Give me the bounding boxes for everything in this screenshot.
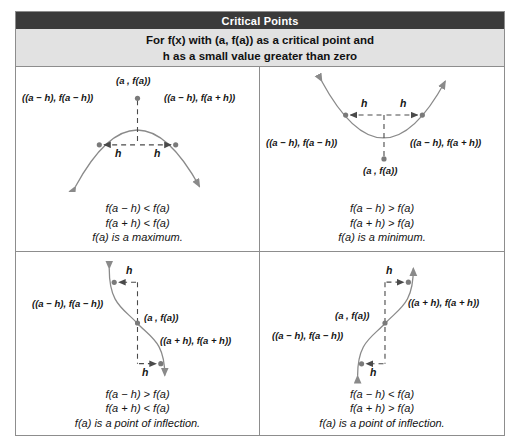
label-left-point: ((a − h), f(a − h)) [32,298,103,309]
caption-maximum: f(a − h) < f(a) f(a + h) < f(a) f(a) is … [16,201,259,245]
label-h-top: h [386,264,392,276]
panel-inflection-increasing: h ((a + h), f(a + h)) (a , f(a)) ((a − h… [260,252,504,437]
caption-line-2: f(a + h) < f(a) [16,401,259,416]
left-point-dot [343,112,348,117]
label-right-point: ((a + h), f(a + h)) [408,297,479,308]
subtitle-line-1: For f(x) with (a, f(a)) as a critical po… [146,32,374,48]
table-subtitle: For f(x) with (a, f(a)) as a critical po… [16,29,504,67]
panel-maximum: (a , f(a)) ((a − h), f(a − h)) ((a − h),… [16,67,260,252]
panel-minimum: h h ((a − h), f(a − h)) ((a − h), f(a + … [260,67,504,252]
caption-line-1: f(a − h) > f(a) [260,201,504,216]
vertex-dot [381,156,386,161]
label-vertex: (a , f(a)) [335,310,369,321]
left-point-dot [97,142,102,147]
caption-inflection-increasing: f(a − h) < f(a) f(a + h) > f(a) f(a) is … [260,387,504,431]
subtitle-line-2: h as a small value greater than zero [163,48,357,64]
critical-points-table: Critical Points For f(x) with (a, f(a)) … [15,11,505,436]
right-point-dot [173,142,178,147]
label-h-bottom: h [142,366,148,378]
right-point-dot [158,361,163,366]
figure-inflection-decreasing [16,252,259,390]
caption-line-3: f(a) is a minimum. [260,230,504,245]
label-vertex: (a , f(a)) [363,165,397,176]
label-h-right: h [400,97,406,109]
caption-line-2: f(a + h) > f(a) [260,216,504,231]
label-right-point: ((a − h), f(a + h)) [164,92,235,103]
caption-line-2: f(a + h) < f(a) [16,216,259,231]
caption-line-2: f(a + h) > f(a) [260,401,504,416]
label-h-top: h [126,264,132,276]
table-title: Critical Points [16,12,504,29]
curve-path [322,81,445,138]
panels-grid: (a , f(a)) ((a − h), f(a − h)) ((a − h),… [16,67,504,436]
left-point-dot [359,361,364,366]
label-vertex: (a , f(a)) [144,312,178,323]
label-left-point: ((a − h), f(a − h)) [266,137,337,148]
label-vertex: (a , f(a)) [116,75,150,86]
vertex-dot [135,96,140,101]
label-h-right: h [154,147,160,159]
figure-inflection-increasing [260,252,504,390]
vertex-dot [382,320,387,325]
caption-line-3: f(a) is a maximum. [16,230,259,245]
label-left-point: ((a − h), f(a − h)) [272,330,343,341]
label-right-point: ((a + h), f(a + h)) [160,335,231,346]
caption-line-1: f(a − h) > f(a) [16,387,259,402]
caption-line-3: f(a) is a point of inflection. [260,416,504,431]
label-h-bottom: h [370,366,376,378]
caption-line-1: f(a − h) < f(a) [16,201,259,216]
caption-minimum: f(a − h) > f(a) f(a + h) > f(a) f(a) is … [260,201,504,245]
caption-inflection-decreasing: f(a − h) > f(a) f(a + h) < f(a) f(a) is … [16,387,259,431]
right-point-dot [420,112,425,117]
label-left-point: ((a − h), f(a − h)) [22,92,93,103]
left-point-dot [112,279,117,284]
label-h-left: h [361,97,367,109]
panel-inflection-decreasing: h ((a − h), f(a − h)) (a , f(a)) ((a + h… [16,252,260,437]
caption-line-1: f(a − h) < f(a) [260,387,504,402]
right-point-dot [406,279,411,284]
vertex-dot [135,320,140,325]
caption-line-3: f(a) is a point of inflection. [16,416,259,431]
label-h-left: h [115,147,121,159]
label-right-point: ((a − h), f(a + h)) [410,137,481,148]
